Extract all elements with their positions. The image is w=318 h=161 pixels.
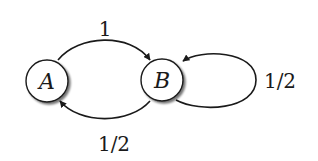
markov-chain-diagram: 1 1/2 1/2 A B — [0, 0, 318, 161]
node-b: B — [141, 59, 183, 101]
edge-b-self-loop-label: 1/2 — [264, 69, 296, 93]
edge-b-self-loop-arrow-icon — [176, 54, 256, 107]
edge-b-self-loop: 1/2 — [176, 54, 296, 107]
edge-b-to-a-label: 1/2 — [98, 132, 130, 156]
edge-a-to-b-arrow-icon — [58, 40, 150, 60]
edge-a-to-b: 1 — [58, 17, 150, 60]
edge-b-to-a: 1/2 — [60, 101, 150, 156]
node-a: A — [26, 60, 68, 102]
node-a-label: A — [37, 69, 55, 94]
edge-b-to-a-arrow-icon — [60, 101, 150, 119]
edge-a-to-b-label: 1 — [99, 17, 112, 41]
node-b-label: B — [153, 68, 170, 93]
